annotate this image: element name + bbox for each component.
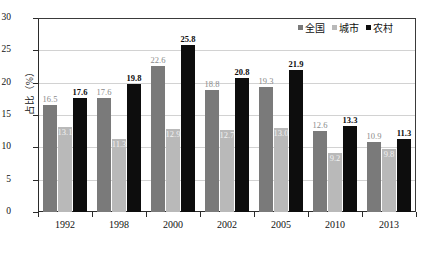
bar-value-label: 9.2 — [330, 154, 341, 163]
bar-value-label: 11.3 — [112, 140, 127, 149]
y-tick-label: 15 — [0, 110, 11, 119]
bar-value-label: 20.8 — [235, 68, 250, 77]
bar-value-label: 13.1 — [58, 128, 73, 137]
bar-value-label: 17.6 — [97, 88, 112, 97]
bar-value-label: 13.0 — [274, 129, 289, 138]
bar-1998-全国[interactable]: 17.6 — [97, 98, 111, 212]
x-tick-mark — [416, 212, 417, 217]
bar-value-label: 25.8 — [181, 35, 196, 44]
y-tick-label: 25 — [0, 45, 11, 54]
bar-2002-城市[interactable]: 12.7 — [220, 130, 234, 212]
legend-swatch-icon — [298, 25, 303, 30]
bar-1992-城市[interactable]: 13.1 — [58, 127, 72, 212]
bar-2000-全国[interactable]: 22.6 — [151, 66, 165, 212]
x-tick-mark — [92, 212, 93, 217]
bar-2000-农村[interactable]: 25.8 — [181, 45, 195, 212]
bar-value-label: 18.8 — [205, 80, 220, 89]
bar-value-label: 16.5 — [43, 95, 58, 104]
x-tick-label-2002: 2002 — [202, 219, 252, 231]
bar-group: 18.812.720.8 — [200, 18, 254, 212]
bar-value-label: 12.7 — [220, 131, 235, 140]
bars-layer: 16.513.117.617.611.319.822.612.925.818.8… — [38, 18, 416, 212]
bar-2002-全国[interactable]: 18.8 — [205, 90, 219, 212]
x-tick-label-1998: 1998 — [94, 219, 144, 231]
legend-label: 城市 — [339, 20, 359, 35]
bar-group: 16.513.117.6 — [38, 18, 92, 212]
bar-2010-全国[interactable]: 12.6 — [313, 131, 327, 212]
bar-1992-农村[interactable]: 17.6 — [73, 98, 87, 212]
x-tick-mark — [200, 212, 201, 217]
chart-legend: 全国城市农村 — [298, 20, 393, 35]
bar-2010-城市[interactable]: 9.2 — [328, 153, 342, 212]
y-axis-title: 占比（%） — [22, 59, 36, 123]
legend-swatch-icon — [332, 25, 337, 30]
bar-value-label: 21.9 — [289, 60, 304, 69]
x-tick-mark — [38, 212, 39, 217]
bar-group: 17.611.319.8 — [92, 18, 146, 212]
bar-value-label: 13.3 — [343, 116, 358, 125]
bar-value-label: 9.8 — [384, 150, 395, 159]
bar-chart: 占比（%） 051015202530 16.513.117.617.611.31… — [0, 0, 431, 253]
y-tick-label: 10 — [0, 142, 11, 151]
bar-value-label: 17.6 — [73, 88, 88, 97]
bar-value-label: 12.9 — [166, 130, 181, 139]
bar-2005-全国[interactable]: 19.3 — [259, 87, 273, 212]
bar-group: 10.99.811.3 — [362, 18, 416, 212]
bar-2002-农村[interactable]: 20.8 — [235, 78, 249, 213]
legend-label: 全国 — [305, 20, 325, 35]
bar-1998-城市[interactable]: 11.3 — [112, 139, 126, 212]
x-tick-mark — [254, 212, 255, 217]
x-tick-mark — [308, 212, 309, 217]
y-tick-label: 20 — [0, 78, 11, 87]
bar-value-label: 11.3 — [397, 129, 411, 138]
bar-1992-全国[interactable]: 16.5 — [43, 105, 57, 212]
legend-swatch-icon — [366, 25, 371, 30]
bar-value-label: 12.6 — [313, 121, 328, 130]
bar-2013-农村[interactable]: 11.3 — [397, 139, 411, 212]
bar-value-label: 10.9 — [367, 132, 382, 141]
legend-label: 农村 — [373, 20, 393, 35]
bar-group: 19.313.021.9 — [254, 18, 308, 212]
bar-group: 12.69.213.3 — [308, 18, 362, 212]
x-tick-label-2013: 2013 — [364, 219, 414, 231]
bar-value-label: 19.3 — [259, 77, 274, 86]
y-tick-label: 5 — [0, 175, 11, 184]
bar-group: 22.612.925.8 — [146, 18, 200, 212]
x-tick-mark — [146, 212, 147, 217]
bar-value-label: 19.8 — [127, 74, 142, 83]
legend-item-城市[interactable]: 城市 — [332, 20, 359, 35]
y-tick-label: 0 — [0, 207, 11, 216]
y-tick-label: 30 — [0, 13, 11, 22]
bar-2013-全国[interactable]: 10.9 — [367, 142, 381, 212]
bar-1998-农村[interactable]: 19.8 — [127, 84, 141, 212]
bar-2013-城市[interactable]: 9.8 — [382, 149, 396, 212]
x-tick-label-2005: 2005 — [256, 219, 306, 231]
legend-item-全国[interactable]: 全国 — [298, 20, 325, 35]
x-tick-label-2010: 2010 — [310, 219, 360, 231]
bar-2005-农村[interactable]: 21.9 — [289, 70, 303, 212]
bar-2000-城市[interactable]: 12.9 — [166, 129, 180, 212]
legend-item-农村[interactable]: 农村 — [366, 20, 393, 35]
bar-value-label: 22.6 — [151, 56, 166, 65]
x-tick-label-1992: 1992 — [40, 219, 90, 231]
bar-2005-城市[interactable]: 13.0 — [274, 128, 288, 212]
bar-2010-农村[interactable]: 13.3 — [343, 126, 357, 212]
x-tick-label-2000: 2000 — [148, 219, 198, 231]
x-tick-mark — [362, 212, 363, 217]
